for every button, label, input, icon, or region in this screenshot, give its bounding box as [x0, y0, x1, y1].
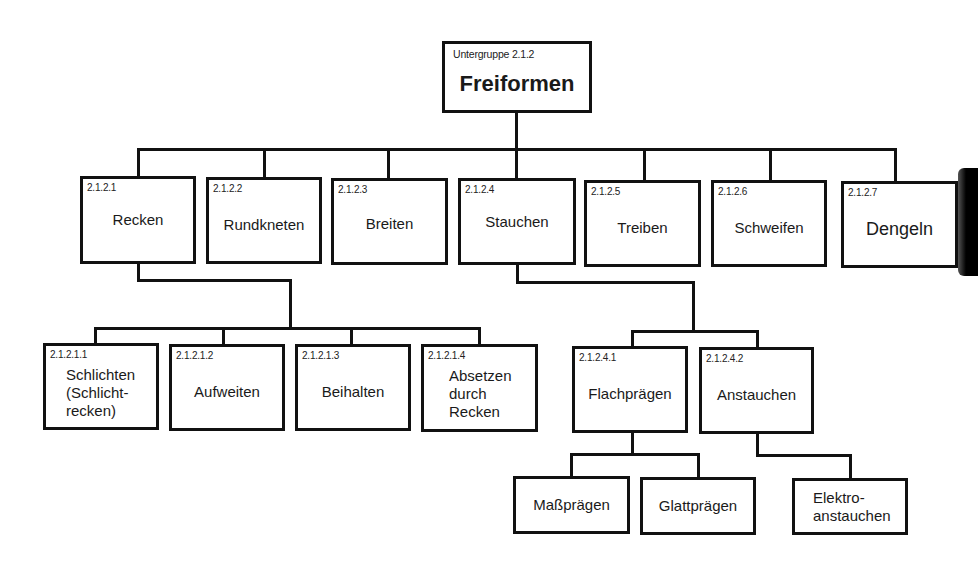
connector-schweifen	[769, 148, 772, 182]
connector-stauchen-drop	[692, 281, 695, 333]
node-label: Glattprägen	[643, 480, 753, 532]
node-label: Elektro- anstauchen	[795, 481, 905, 532]
node-label-line: Elektro-	[813, 489, 865, 507]
connector-rundkneten	[263, 148, 266, 179]
node-dengeln: 2.1.2.7 Dengeln	[841, 181, 958, 268]
node-label-line: durch	[449, 385, 487, 403]
node-masspraegen: Maßprägen	[513, 476, 630, 534]
node-stauchen: 2.1.2.4 Stauchen	[458, 178, 576, 265]
node-label: Beihalten	[298, 347, 408, 428]
node-label: Anstauchen	[702, 350, 811, 431]
node-label: Maßprägen	[516, 479, 627, 531]
node-beihalten: 2.1.2.1.3 Beihalten	[295, 344, 411, 431]
node-aufweiten: 2.1.2.1.2 Aufweiten	[169, 344, 285, 431]
node-label-line: recken)	[66, 402, 116, 420]
node-schweifen: 2.1.2.6 Schweifen	[711, 180, 827, 267]
connector-glattpraegen	[697, 453, 700, 479]
node-code: 2.1.2.1	[87, 182, 116, 193]
node-label: Rundkneten	[209, 180, 319, 261]
node-label: Schlichten (Schlicht- recken)	[46, 346, 156, 427]
node-label: Breiten	[334, 181, 445, 262]
node-recken: 2.1.2.1 Recken	[80, 176, 196, 264]
node-label-line: anstauchen	[813, 507, 891, 525]
connector-stauchen-jog	[516, 281, 695, 284]
node-elektroanstauchen: Elektro- anstauchen	[792, 478, 908, 535]
node-label: Stauchen	[461, 181, 573, 262]
node-rundkneten: 2.1.2.2 Rundkneten	[206, 177, 322, 264]
connector-recken-bus	[94, 327, 481, 330]
connector-root-down	[515, 112, 518, 151]
node-label: Treiben	[587, 183, 698, 264]
node-label-line: Absetzen	[449, 367, 512, 385]
node-treiben: 2.1.2.5 Treiben	[584, 180, 701, 267]
node-label: Flachprägen	[575, 349, 685, 430]
connector-recken-drop	[289, 279, 292, 330]
connector-stauchen-bus	[631, 330, 759, 333]
connector-elektro	[849, 454, 852, 480]
connector-treiben	[643, 148, 646, 182]
node-label: Freiformen	[445, 44, 589, 110]
connector-recken	[137, 148, 140, 178]
connector-stauchen	[515, 148, 518, 180]
node-label: Recken	[83, 211, 193, 261]
node-flachpraegen: 2.1.2.4.1 Flachprägen	[572, 346, 688, 433]
connector-dengeln	[894, 148, 897, 183]
connector-breiten	[387, 148, 390, 180]
node-label: Schweifen	[714, 183, 824, 264]
page-binding-shadow	[958, 168, 978, 276]
node-label-line: (Schlicht-	[66, 384, 129, 402]
connector-anstauchen-jog	[756, 454, 852, 457]
node-glattpraegen: Glattprägen	[640, 477, 756, 535]
node-label: Dengeln	[844, 184, 955, 265]
connector-masspraegen	[570, 453, 573, 478]
node-schlichten: 2.1.2.1.1 Schlichten (Schlicht- recken)	[43, 343, 159, 430]
connector-flachpraegen-bus	[570, 453, 700, 456]
node-label-line: Recken	[449, 403, 500, 421]
node-anstauchen: 2.1.2.4.2 Anstauchen	[699, 347, 814, 434]
node-breiten: 2.1.2.3 Breiten	[331, 178, 448, 265]
node-label: Absetzen durch Recken	[424, 347, 535, 429]
node-label-line: Schlichten	[66, 366, 135, 384]
connector-recken-jog	[137, 279, 292, 282]
node-freiformen: Untergruppe 2.1.2 Freiformen	[442, 41, 592, 113]
node-absetzen: 2.1.2.1.4 Absetzen durch Recken	[421, 344, 538, 432]
node-label: Aufweiten	[172, 347, 282, 428]
